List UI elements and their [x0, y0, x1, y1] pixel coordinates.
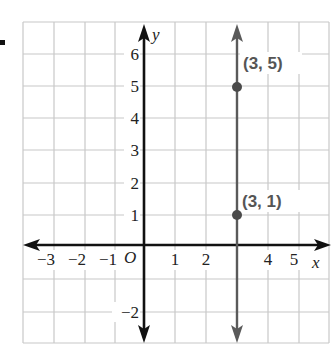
x-axis-label: x	[311, 253, 320, 272]
coordinate-plane: (3, 5) (3, 1) y x O 6 5 4 3 2 1 −2 −3 −2…	[0, 0, 335, 364]
origin-label: O	[124, 248, 136, 267]
x-tick-minus-1: −1	[99, 250, 117, 269]
y-tick-4: 4	[131, 109, 140, 128]
y-tick-minus-2: −2	[121, 303, 139, 322]
y-axis-label: y	[150, 25, 160, 44]
point-label-3-5: (3, 5)	[243, 54, 283, 73]
y-tick-5: 5	[131, 77, 140, 96]
y-tick-3: 3	[131, 141, 140, 160]
x-tick-1: 1	[171, 250, 180, 269]
y-tick-2: 2	[131, 174, 140, 193]
point-3-1	[232, 210, 242, 220]
point-3-5	[232, 82, 242, 92]
x-tick-4: 4	[264, 250, 273, 269]
x-tick-5: 5	[290, 250, 299, 269]
y-tick-6: 6	[131, 45, 140, 64]
y-tick-1: 1	[131, 206, 140, 225]
x-tick-2: 2	[202, 250, 211, 269]
x-tick-minus-3: −3	[37, 250, 55, 269]
bullet-marker	[0, 40, 5, 45]
x-tick-minus-2: −2	[68, 250, 86, 269]
point-label-3-1: (3, 1)	[242, 192, 282, 211]
